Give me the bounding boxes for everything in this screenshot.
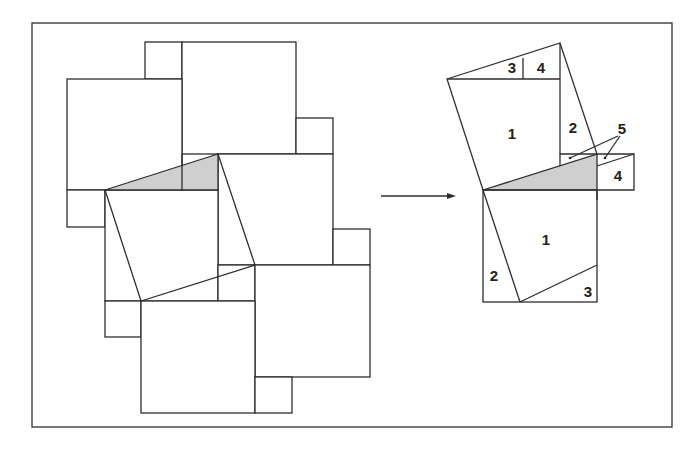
large-square [255, 265, 370, 377]
piece-label: 4 [537, 59, 546, 76]
large-square [218, 154, 333, 265]
small-square [255, 377, 292, 413]
pythagorean-dissection-diagram: 3 4 1 2 5 4 1 2 3 [0, 0, 696, 452]
arrow-icon [381, 193, 456, 199]
right-figure: 3 4 1 2 5 4 1 2 3 [447, 43, 634, 302]
piece-label: 2 [490, 267, 498, 284]
piece-label: 4 [614, 167, 623, 184]
piece-label: 1 [542, 231, 550, 248]
piece-label: 3 [584, 283, 592, 300]
label-5-pointer [605, 136, 620, 158]
left-tiling [67, 42, 370, 413]
piece-label: 3 [508, 59, 516, 76]
lower-square [483, 190, 597, 302]
large-square [182, 42, 296, 154]
piece-label: 2 [569, 119, 577, 136]
piece-label: 1 [508, 125, 516, 142]
small-square [296, 118, 333, 154]
piece-label: 5 [618, 120, 626, 137]
small-square [333, 229, 370, 265]
small-square [105, 301, 141, 337]
small-square [67, 190, 105, 227]
large-square [105, 190, 218, 301]
large-square [141, 301, 255, 413]
small-square [145, 42, 182, 79]
